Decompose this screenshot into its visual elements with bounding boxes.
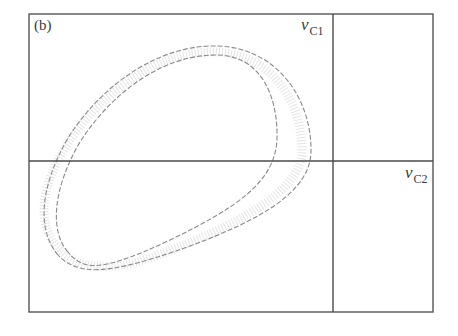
scatter-band — [44, 52, 302, 266]
plot-frame — [29, 14, 433, 312]
vertical-axis-label: vC1 — [301, 16, 324, 33]
inner-orbit-curve — [56, 55, 277, 266]
vertical-axis-subscript: C1 — [310, 24, 324, 38]
vertical-axis-symbol: v — [301, 15, 309, 34]
phase-plot — [0, 0, 458, 336]
horizontal-axis-label: vC2 — [405, 164, 428, 181]
horizontal-axis-symbol: v — [405, 163, 413, 182]
panel-label: (b) — [34, 18, 52, 33]
horizontal-axis-subscript: C2 — [414, 172, 428, 186]
